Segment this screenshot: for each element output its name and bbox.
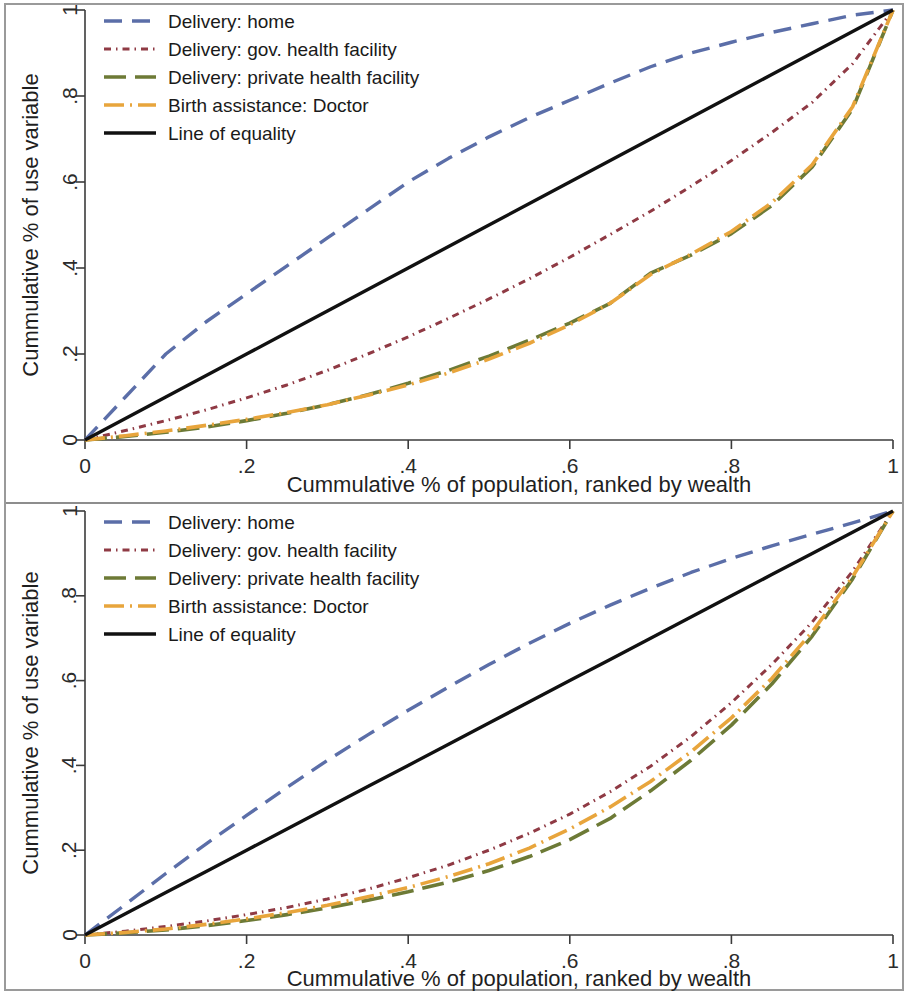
legend-label-1: Delivery: home [168, 11, 295, 32]
y-tick-label: 1 [58, 505, 81, 517]
x-tick-label: .2 [238, 949, 256, 972]
legend-label-5: Line of equality [168, 123, 296, 144]
plot-area-bottom: 0.2.4.6.810.2.4.6.81Cummulative % of pop… [0, 503, 908, 994]
y-tick-label: .8 [58, 587, 81, 605]
chart-panel-bottom: 0.2.4.6.810.2.4.6.81Cummulative % of pop… [0, 503, 908, 994]
y-tick-label: .4 [58, 756, 81, 774]
y-axis-title: Cummulative % of use variable [18, 571, 43, 874]
y-tick-label: .2 [58, 345, 81, 363]
chart-panel-top: 0.2.4.6.810.2.4.6.81Cummulative % of pop… [0, 0, 908, 503]
y-tick-label: .8 [58, 87, 81, 105]
x-axis-title: Cummulative % of population, ranked by w… [287, 966, 752, 991]
x-tick-label: .2 [238, 454, 256, 477]
x-axis-title: Cummulative % of population, ranked by w… [287, 472, 752, 497]
x-tick-label: 0 [79, 454, 91, 477]
plot-area-top: 0.2.4.6.810.2.4.6.81Cummulative % of pop… [0, 0, 908, 503]
legend-label-4: Birth assistance: Doctor [168, 596, 369, 617]
y-tick-label: .4 [58, 259, 81, 277]
y-tick-label: .6 [58, 672, 81, 690]
figure-page: 0.2.4.6.810.2.4.6.81Cummulative % of pop… [0, 0, 908, 994]
x-tick-label: 0 [79, 949, 91, 972]
legend-label-2: Delivery: gov. health facility [168, 39, 397, 60]
legend-label-3: Delivery: private health facility [168, 568, 420, 589]
legend-label-4: Birth assistance: Doctor [168, 95, 369, 116]
y-tick-label: .6 [58, 173, 81, 191]
legend-label-1: Delivery: home [168, 512, 295, 533]
legend-label-3: Delivery: private health facility [168, 67, 420, 88]
legend-label-2: Delivery: gov. health facility [168, 540, 397, 561]
legend: Delivery: homeDelivery: gov. health faci… [104, 512, 420, 645]
y-tick-label: 1 [58, 4, 81, 16]
legend: Delivery: homeDelivery: gov. health faci… [104, 11, 420, 144]
x-tick-label: 1 [887, 949, 899, 972]
legend-label-5: Line of equality [168, 624, 296, 645]
y-axis-title: Cummulative % of use variable [18, 73, 43, 376]
y-tick-label: .2 [58, 841, 81, 859]
y-tick-label: 0 [58, 929, 81, 941]
y-tick-label: 0 [58, 434, 81, 446]
x-tick-label: 1 [887, 454, 899, 477]
